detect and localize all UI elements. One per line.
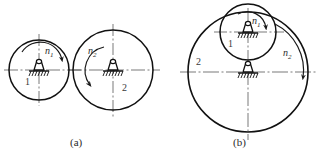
wheel-number-b1: 1: [228, 38, 233, 49]
friction-wheel-figure: 1 2 n1 n2 (a) 1 2 n1 n2 (b): [0, 0, 318, 157]
panel-caption-a: (a): [70, 136, 82, 148]
panel-b-group: [180, 4, 316, 140]
panel-a-group: [4, 24, 160, 117]
figure-drawing-canvas: [0, 0, 318, 157]
wheel-number-a1: 1: [25, 76, 30, 87]
wheel-number-a2: 2: [122, 82, 127, 93]
speed-label-b2: n2: [283, 47, 292, 61]
speed-label-b1: n1: [252, 15, 261, 29]
support-symbol-a2: [103, 59, 123, 76]
speed-label-a2: n2: [88, 45, 97, 59]
support-symbol-a1: [29, 59, 49, 76]
wheel-number-b2: 2: [196, 56, 201, 67]
speed-label-a1: n1: [45, 45, 54, 59]
support-symbol-b2: [238, 61, 258, 78]
panel-caption-b: (b): [233, 136, 246, 148]
